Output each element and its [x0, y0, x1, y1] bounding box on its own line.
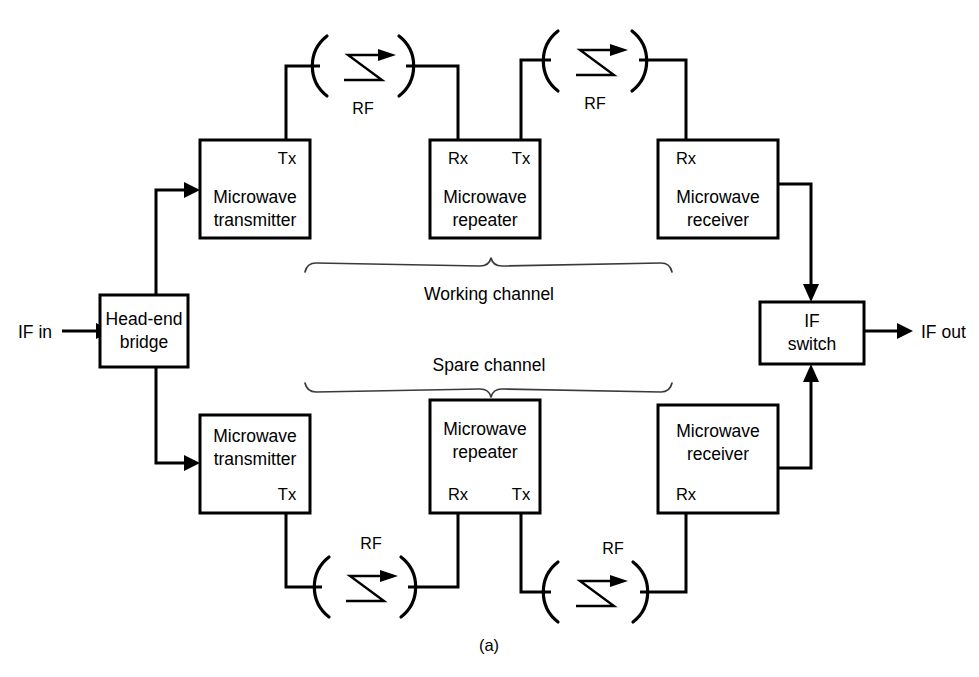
rf-label-spare-1: RF [360, 535, 382, 552]
block-spare-microwave-receiver[interactable]: Microwave receiver Rx [658, 405, 778, 513]
spare-repeater-port-rx: Rx [448, 485, 469, 503]
if-switch-label-line1: IF [804, 311, 820, 331]
spare-receiver-label-line2: receiver [687, 444, 749, 464]
brace-spare-channel [305, 383, 672, 397]
rf-wave-icon-working-1 [344, 55, 383, 80]
working-receiver-port-rx: Rx [676, 149, 697, 167]
wire-bridge-to-upper-tx [156, 190, 184, 295]
block-head-end-bridge[interactable]: Head-end bridge [100, 295, 188, 367]
arrowhead-if-out [897, 323, 913, 339]
working-repeater-port-tx: Tx [512, 149, 531, 167]
arrowhead-rf-working-2 [610, 44, 628, 56]
arrowhead-rf-working-1 [378, 49, 396, 61]
arrowhead-rf-spare-2 [610, 575, 628, 587]
brace-working-channel [305, 258, 672, 272]
arrowhead-upper-tx-in [184, 182, 200, 198]
spare-receiver-label-line1: Microwave [676, 421, 760, 441]
wire-lower-receiver-to-if-switch [778, 382, 811, 468]
arrowhead-if-switch-bottom-in [803, 364, 819, 382]
wire-upper-repeater-tx-to-antenna3 [521, 60, 551, 140]
rf-wave-icon-spare-2 [576, 581, 615, 606]
spare-channel-label: Spare channel [433, 355, 546, 375]
working-repeater-port-rx: Rx [448, 149, 469, 167]
rf-label-spare-2: RF [602, 540, 624, 557]
head-end-bridge-label-line2: bridge [120, 332, 169, 352]
block-spare-microwave-repeater[interactable]: Microwave repeater Rx Tx [430, 400, 540, 513]
rf-wave-icon-working-2 [576, 50, 615, 75]
rf-wave-icon-spare-1 [346, 576, 385, 601]
rf-hop-spare-1: RF [314, 535, 415, 617]
if-switch-label-line2: switch [788, 334, 837, 354]
if-in-label: IF in [18, 322, 52, 342]
arrowhead-if-switch-top-in [803, 284, 819, 302]
wire-bridge-to-lower-tx [156, 367, 184, 463]
if-out-label: IF out [921, 322, 966, 342]
rf-label-working-2: RF [584, 95, 606, 112]
microwave-radio-protection-diagram: Head-end bridge Tx Microwave transmitter… [0, 0, 979, 677]
working-receiver-label-line1: Microwave [676, 187, 760, 207]
spare-transmitter-label-line2: transmitter [214, 449, 297, 469]
working-receiver-label-line2: receiver [687, 210, 749, 230]
annotation-spare-channel: Spare channel [305, 355, 672, 397]
working-transmitter-label-line2: transmitter [214, 210, 297, 230]
spare-repeater-port-tx: Tx [512, 485, 531, 503]
spare-transmitter-label-line1: Microwave [213, 426, 297, 446]
arrowhead-rf-spare-1 [380, 570, 398, 582]
figure-caption: (a) [479, 636, 499, 654]
rf-hop-working-1: RF [312, 36, 413, 117]
wire-group-if-out [864, 323, 913, 339]
working-transmitter-label-line1: Microwave [213, 187, 297, 207]
block-working-microwave-receiver[interactable]: Rx Microwave receiver [658, 140, 778, 238]
spare-repeater-label-line1: Microwave [443, 419, 527, 439]
head-end-bridge-label-line1: Head-end [106, 309, 183, 329]
arrowhead-lower-tx-in [184, 455, 200, 471]
rf-hop-spare-2: RF [543, 540, 647, 622]
block-working-microwave-repeater[interactable]: Rx Tx Microwave repeater [430, 140, 540, 238]
spare-transmitter-port-tx: Tx [278, 485, 297, 503]
rf-label-working-1: RF [352, 100, 374, 117]
annotation-working-channel: Working channel [305, 258, 672, 304]
spare-receiver-port-rx: Rx [676, 485, 697, 503]
block-if-switch[interactable]: IF switch [760, 302, 864, 364]
head-end-bridge-box[interactable] [100, 295, 188, 367]
working-transmitter-port-tx: Tx [278, 149, 297, 167]
spare-repeater-label-line2: repeater [452, 442, 517, 462]
rf-hop-working-2: RF [543, 31, 646, 112]
block-spare-microwave-transmitter[interactable]: Microwave transmitter Tx [200, 415, 310, 513]
wire-upper-receiver-to-if-switch [778, 184, 811, 284]
block-working-microwave-transmitter[interactable]: Tx Microwave transmitter [200, 140, 310, 238]
working-repeater-label-line1: Microwave [443, 187, 527, 207]
working-channel-label: Working channel [424, 284, 554, 304]
working-repeater-label-line2: repeater [452, 210, 517, 230]
